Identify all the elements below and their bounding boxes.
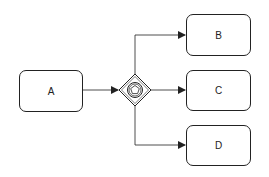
task-d-label: D xyxy=(215,140,222,151)
task-b-label: B xyxy=(215,30,222,41)
task-c-label: C xyxy=(215,85,222,96)
task-b[interactable]: B xyxy=(186,14,251,56)
task-a-label: A xyxy=(48,86,55,97)
edge-gateway-to-b xyxy=(135,35,185,74)
task-c[interactable]: C xyxy=(186,70,251,111)
task-d[interactable]: D xyxy=(186,125,251,166)
edge-gateway-to-d xyxy=(135,106,185,145)
event-based-gateway[interactable] xyxy=(119,74,151,106)
task-a[interactable]: A xyxy=(19,70,83,112)
